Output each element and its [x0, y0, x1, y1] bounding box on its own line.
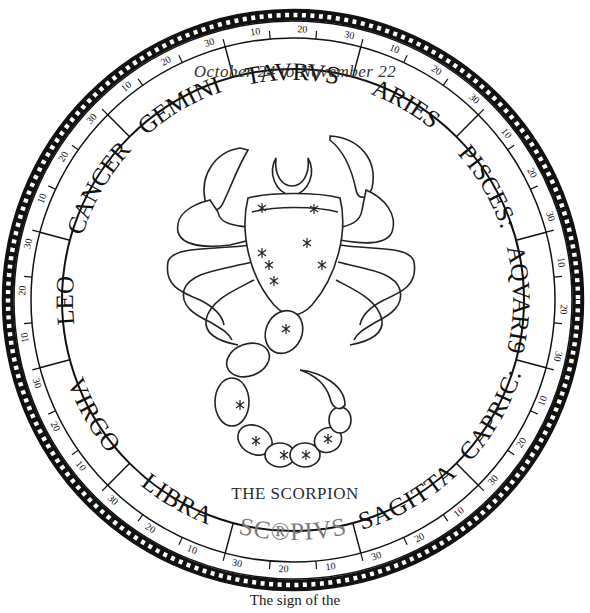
figure-caption: THE SCORPION	[0, 484, 590, 504]
svg-text:20: 20	[297, 23, 307, 34]
svg-text:10: 10	[186, 542, 199, 556]
sign-label-7: SC®PIVS	[237, 512, 349, 545]
svg-text:30: 30	[231, 557, 243, 570]
sign-label-9: CAPRIC:	[453, 365, 526, 465]
svg-text:10: 10	[250, 25, 261, 37]
sign-label-0: ARIES	[368, 73, 446, 134]
sign-label-3: CANCER	[61, 135, 136, 238]
svg-text:10: 10	[555, 257, 567, 268]
svg-text:20: 20	[278, 563, 288, 574]
svg-text:30: 30	[544, 210, 558, 223]
bottom-caption: The sign of the	[0, 592, 590, 609]
svg-text:10: 10	[35, 192, 49, 205]
date-range-text: October 24 to November 22	[0, 62, 590, 82]
sign-label-4: LEO	[51, 274, 79, 326]
scorpion-constellation-icon	[167, 136, 414, 467]
zodiac-wheel: 1020301020301020301020301020301020301020…	[0, 0, 590, 613]
sign-label-5: VIRGO	[63, 374, 127, 458]
sign-label-11: PISCES:	[454, 139, 523, 232]
svg-text:10: 10	[325, 560, 336, 572]
svg-text:30: 30	[31, 377, 45, 390]
svg-text:20: 20	[56, 149, 71, 163]
svg-text:10: 10	[388, 42, 401, 56]
svg-text:30: 30	[203, 35, 216, 49]
svg-text:20: 20	[525, 166, 539, 180]
svg-text:30: 30	[552, 350, 565, 362]
svg-text:20: 20	[16, 285, 27, 295]
svg-text:30: 30	[21, 238, 34, 250]
sign-label-10: AQVARI9	[502, 243, 535, 357]
svg-text:20: 20	[558, 304, 569, 314]
svg-text:10: 10	[535, 394, 549, 407]
svg-text:30: 30	[370, 549, 383, 563]
svg-text:30: 30	[343, 28, 355, 41]
svg-text:10: 10	[18, 332, 30, 343]
